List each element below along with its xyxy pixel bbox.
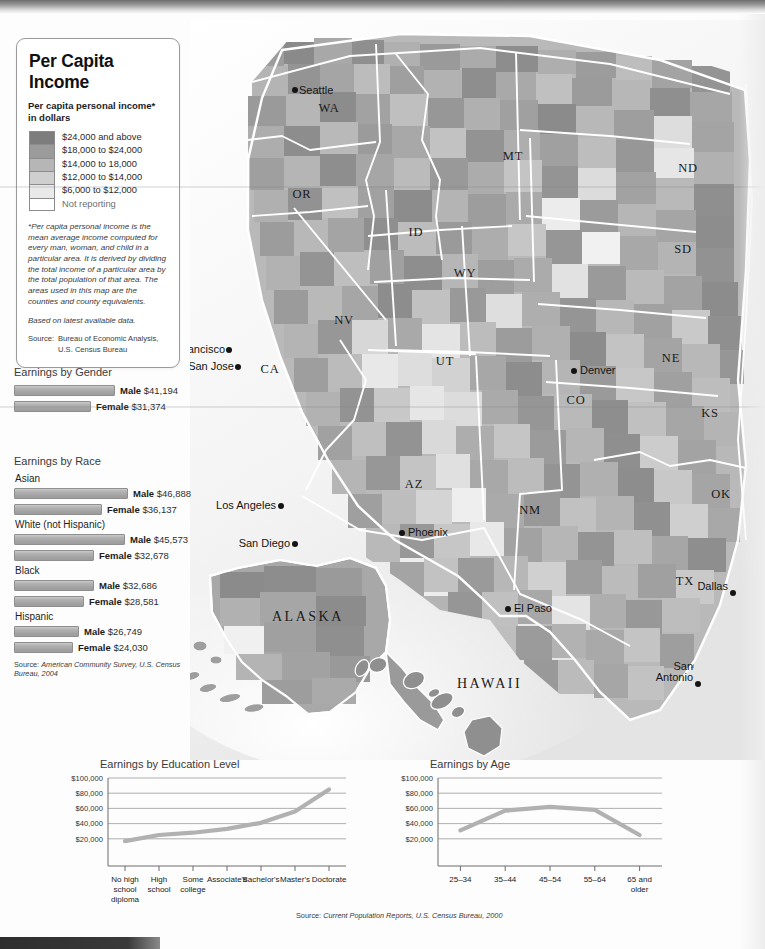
earnings-by-race-panel: Earnings by Race AsianMale $46,888Female…: [14, 455, 194, 678]
legend-color-swatch: [29, 171, 55, 184]
earnings-by-gender-heading: Earnings by Gender: [14, 366, 189, 378]
charts-source-value: Current Population Reports, U.S. Census …: [323, 911, 502, 920]
x-axis-tick-label: Somecollege: [180, 875, 206, 894]
earnings-bar: [14, 385, 115, 396]
region-label-alaska: ALASKA: [272, 609, 344, 624]
earnings-bar-row: Male $45,573: [14, 533, 194, 546]
infographic-page: WAORIDMTNDSDNEKSWYNVUTCACOAZNMOKTX ALASK…: [0, 0, 765, 949]
city-marker-san-antonio: [695, 681, 701, 687]
city-label-san-jose: San Jose: [190, 360, 234, 372]
city-label-san-francisco: San Francisco: [190, 343, 225, 355]
earnings-bar-row: Female $24,030: [14, 641, 194, 654]
earnings-bar-sex: Female: [107, 504, 140, 515]
state-label-wy: WY: [454, 266, 476, 280]
earnings-bar: [14, 550, 94, 561]
earnings-bar-label: Male $46,888: [128, 488, 191, 499]
x-axis-tick-label: Master's: [280, 875, 310, 884]
city-marker-el-paso: [505, 606, 511, 612]
earnings-bar-row: Male $26,749: [14, 625, 194, 638]
legend-class-row: $14,000 to 18,000: [29, 158, 168, 171]
state-label-ut: UT: [436, 354, 454, 368]
earnings-bar-sex: Female: [89, 596, 122, 607]
earnings-by-gender-panel: Earnings by Gender Male $41,194Female $3…: [14, 366, 189, 416]
region-label-hawaii: HAWAII: [457, 676, 522, 691]
y-axis-tick-label: $40,000: [76, 819, 103, 828]
y-axis-tick-label: $100,000: [401, 774, 433, 783]
legend-source: Source:Bureau of Economic Analysis, U.S.…: [28, 334, 168, 355]
city-marker-dallas: [730, 590, 736, 596]
earnings-bar: [14, 534, 125, 545]
earnings-bar-sex: Male: [133, 488, 154, 499]
earnings-bar-row: Female $32,678: [14, 549, 194, 562]
city-marker-san-francisco: [226, 347, 232, 353]
race-group-heading: White (not Hispanic): [15, 519, 194, 530]
legend-class-label: $24,000 and above: [55, 131, 142, 144]
legend-color-swatch: [29, 131, 55, 144]
x-axis-tick-label: Associate's: [207, 875, 247, 884]
earnings-bar-value: $24,030: [111, 642, 148, 653]
earnings-bar: [14, 580, 94, 591]
x-axis-tick-label: Highschool: [147, 875, 170, 894]
x-axis-tick-label: No highschooldiploma: [111, 875, 140, 904]
city-label-los-angeles: Los Angeles: [216, 499, 276, 511]
earnings-bar-sex: Male: [130, 534, 151, 545]
earnings-bar-label: Male $32,686: [94, 580, 157, 591]
legend-color-swatch: [29, 158, 55, 171]
y-axis-tick-label: $20,000: [76, 835, 103, 844]
legend-class-row: $18,000 to $24,000: [29, 144, 168, 157]
map-legend-panel: Per Capita Income Per capita personal in…: [16, 38, 180, 368]
x-axis-tick-label: Doctorate: [312, 875, 347, 884]
city-label-seattle: Seattle: [299, 84, 333, 96]
y-axis-tick-label: $20,000: [406, 835, 433, 844]
y-axis-tick-label: $100,000: [71, 774, 103, 783]
earnings-bar-value: $32,686: [120, 580, 157, 591]
legend-class-label: $14,000 to 18,000: [55, 158, 137, 171]
city-label-dallas: Dallas: [697, 580, 728, 592]
earnings-by-age-chart: Earnings by Age $20,000$40,000$60,000$80…: [388, 758, 668, 908]
gender-bar-list: Male $41,194Female $31,374: [14, 384, 189, 413]
charts-source-label: Source:: [296, 911, 321, 920]
y-axis-tick-label: $60,000: [76, 804, 103, 813]
state-label-nm: NM: [519, 503, 541, 517]
legend-class-label: Not reporting: [55, 198, 116, 211]
legend-class-row: Not reporting: [29, 198, 168, 211]
earnings-bar: [14, 642, 73, 653]
earnings-bar: [14, 626, 79, 637]
earnings-bar: [14, 504, 102, 515]
state-label-nd: ND: [678, 161, 698, 175]
state-label-co: CO: [567, 393, 586, 407]
race-group-list: AsianMale $46,888Female $36,137White (no…: [14, 473, 194, 654]
earnings-bar-label: Female $28,581: [84, 596, 159, 607]
earnings-bar-label: Male $45,573: [125, 534, 188, 545]
earnings-bar-sex: Male: [84, 626, 105, 637]
earnings-bar-value: $45,573: [151, 534, 188, 545]
legend-class-row: $24,000 and above: [29, 131, 168, 144]
city-marker-san-diego: [292, 541, 298, 547]
charts-source: Source: Current Population Reports, U.S.…: [296, 911, 502, 920]
scan-artifact-line: [0, 406, 765, 408]
legend-based-on: Based on latest available data.: [28, 316, 168, 325]
x-axis-tick-label: Bachelor's: [242, 875, 279, 884]
earnings-bar-label: Female $24,030: [73, 642, 148, 653]
earnings-by-race-heading: Earnings by Race: [14, 455, 194, 467]
state-label-ks: KS: [701, 406, 719, 420]
earnings-bar-value: $41,194: [141, 385, 178, 396]
x-axis-tick-label: 25–34: [449, 875, 472, 884]
earnings-bar-value: $28,581: [122, 596, 159, 607]
legend-class-label: $12,000 to $14,000: [55, 171, 142, 184]
city-label-phoenix: Phoenix: [408, 526, 448, 538]
legend-class-list: $24,000 and above$18,000 to $24,000$14,0…: [29, 131, 168, 211]
earnings-bar-value: $36,137: [140, 504, 177, 515]
x-axis-tick-label: 65 andolder: [627, 875, 651, 894]
city-label-el-paso: El Paso: [514, 602, 552, 614]
city-marker-phoenix: [399, 530, 405, 536]
earnings-bar-row: Female $36,137: [14, 503, 194, 516]
state-label-tx: TX: [676, 574, 694, 588]
y-axis-tick-label: $80,000: [406, 789, 433, 798]
earnings-bar-row: Female $28,581: [14, 595, 194, 608]
legend-color-swatch: [29, 198, 55, 211]
legend-source-label: Source:: [28, 334, 58, 344]
earnings-by-education-chart: Earnings by Education Level $20,000$40,0…: [62, 758, 352, 908]
state-label-or: OR: [293, 187, 312, 201]
race-source-label: Source:: [14, 660, 39, 669]
